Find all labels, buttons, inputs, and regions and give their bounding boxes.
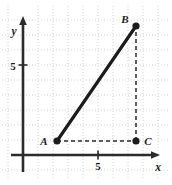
point-b-label: B [120,13,128,25]
y-axis-label: y [9,25,17,38]
x-axis-label: x [154,161,161,173]
x-axis-arrowhead [151,151,160,159]
axes [11,16,160,172]
coordinate-plane-figure: A B C y x 5 5 [0,0,172,185]
text-labels: A B C y x 5 5 [9,13,161,173]
point-c-label: C [144,135,152,147]
point-a-dot [53,137,60,144]
segment-ab-solid [57,26,136,141]
y-axis-tick-label-5: 5 [10,60,16,72]
point-b-dot [132,22,139,29]
y-axis-arrowhead [19,16,27,25]
coordinate-plane-canvas: A B C y x 5 5 [0,0,172,185]
point-a-label: A [39,135,47,147]
x-axis-tick-label-5: 5 [95,160,101,172]
grid-lines [2,6,170,178]
point-c-dot [132,137,139,144]
